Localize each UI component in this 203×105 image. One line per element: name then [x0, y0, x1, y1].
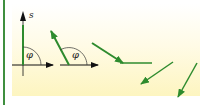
- vector-label-s: s: [29, 10, 34, 20]
- vector-down-right-1: [92, 43, 152, 63]
- diagram-frame: s φ φ: [0, 0, 203, 105]
- vector-down-left: [141, 62, 173, 84]
- angle-label-phi-1: φ: [26, 49, 33, 60]
- reference-axis-1: [12, 20, 53, 76]
- arrowhead-icon: [20, 11, 26, 21]
- angle-label-phi-2: φ: [72, 49, 79, 60]
- vector-down-steep: [178, 63, 197, 97]
- vector-s-tilted: [51, 31, 69, 65]
